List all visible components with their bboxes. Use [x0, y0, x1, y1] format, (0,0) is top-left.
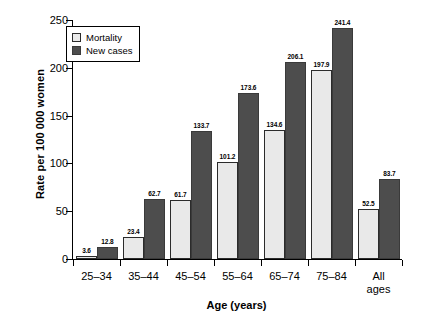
x-tick-mark [308, 260, 309, 266]
bar-value-label: 241.4 [328, 19, 358, 26]
legend-item-new-cases: New cases [72, 44, 132, 57]
y-tick-label: 50 [34, 206, 68, 216]
bar-mortality [170, 200, 191, 259]
bar-group: 101.2173.6 [217, 20, 259, 259]
bar-value-label: 133.7 [187, 122, 217, 129]
y-tick-mark [66, 211, 72, 212]
x-tick-mark [167, 260, 168, 266]
x-tick-mark [355, 260, 356, 266]
x-tick-mark [402, 260, 403, 266]
bar-chart-figure: Rate per 100 000 women 050100150200250 3… [0, 0, 427, 323]
x-tick-mark [120, 260, 121, 266]
bar-group: 197.9241.4 [311, 20, 353, 259]
legend-swatch-mortality [72, 33, 81, 42]
x-axis-title-wrap: Age (years) [0, 299, 427, 311]
bar-newcases [238, 93, 259, 259]
x-tick-mark [261, 260, 262, 266]
bar-newcases [191, 131, 212, 259]
bar-newcases [97, 247, 118, 259]
bar-group: 61.7133.7 [170, 20, 212, 259]
bar-newcases [285, 62, 306, 259]
y-tick-label: 200 [34, 63, 68, 73]
bar-group: 134.6206.1 [264, 20, 306, 259]
bar-mortality [123, 237, 144, 259]
x-tick-mark [73, 260, 74, 266]
x-tick-mark [214, 260, 215, 266]
y-tick-mark [66, 68, 72, 69]
bar-value-label: 12.8 [93, 238, 123, 245]
bar-newcases [144, 199, 165, 259]
legend-label-mortality: Mortality [86, 33, 122, 43]
x-axis-line [72, 259, 402, 260]
y-tick-label: 250 [34, 15, 68, 25]
legend-label-new-cases: New cases [86, 46, 132, 56]
bar-value-label: 206.1 [281, 53, 311, 60]
y-tick-label: 0 [34, 254, 68, 264]
y-tick-label: 100 [34, 158, 68, 168]
y-tick-mark [66, 20, 72, 21]
bar-mortality [76, 256, 97, 259]
y-tick-mark [66, 163, 72, 164]
bar-group: 52.583.7 [358, 20, 400, 259]
legend-swatch-new-cases [72, 46, 81, 55]
bar-mortality [311, 70, 332, 259]
x-axis-title: Age (years) [161, 299, 267, 311]
x-tick-label-line2: ages [367, 283, 391, 295]
bar-value-label: 83.7 [375, 170, 405, 177]
legend-item-mortality: Mortality [72, 31, 132, 44]
legend: Mortality New cases [66, 26, 140, 62]
bar-mortality [358, 209, 379, 259]
x-tick-label: Allages [344, 270, 414, 296]
y-tick-mark [66, 116, 72, 117]
bar-newcases [379, 179, 400, 259]
bar-mortality [264, 130, 285, 259]
bar-mortality [217, 162, 238, 259]
y-tick-mark [66, 259, 72, 260]
y-tick-label: 150 [34, 111, 68, 121]
bar-newcases [332, 28, 353, 259]
bar-value-label: 173.6 [234, 84, 264, 91]
